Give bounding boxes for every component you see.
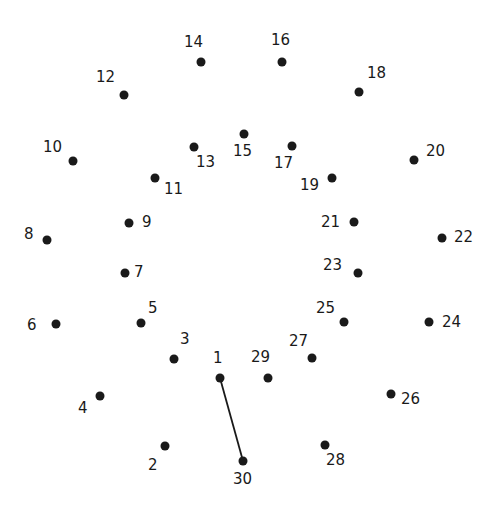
dot-number-label: 17 — [274, 154, 293, 172]
dot-marker[interactable] — [239, 457, 248, 466]
dot-25[interactable]: 25 — [316, 299, 349, 327]
dot-number-label: 22 — [454, 228, 473, 246]
dot-marker[interactable] — [137, 319, 146, 328]
dot-14[interactable]: 14 — [184, 33, 206, 67]
dot-number-label: 29 — [251, 348, 270, 366]
dot-number-label: 18 — [367, 64, 386, 82]
dot-marker[interactable] — [438, 234, 447, 243]
dot-2[interactable]: 2 — [148, 442, 170, 475]
dot-number-label: 13 — [196, 153, 215, 171]
dot-marker[interactable] — [340, 318, 349, 327]
dot-marker[interactable] — [125, 219, 134, 228]
dot-1[interactable]: 1 — [213, 349, 225, 383]
dot-marker[interactable] — [288, 142, 297, 151]
dot-marker[interactable] — [96, 392, 105, 401]
dot-marker[interactable] — [161, 442, 170, 451]
dot-marker[interactable] — [264, 374, 273, 383]
dot-10[interactable]: 10 — [43, 138, 78, 166]
dot-19[interactable]: 19 — [300, 174, 337, 195]
dot-number-label: 21 — [321, 213, 340, 231]
dot-marker[interactable] — [216, 374, 225, 383]
dot-6[interactable]: 6 — [27, 316, 61, 334]
dot-16[interactable]: 16 — [271, 31, 290, 67]
dot-marker[interactable] — [321, 441, 330, 450]
puzzle-dots: 1234567891011121314151617181920212223242… — [24, 31, 473, 488]
dot-15[interactable]: 15 — [233, 130, 252, 161]
dot-23[interactable]: 23 — [323, 256, 363, 278]
dot-number-label: 7 — [134, 263, 144, 281]
dot-5[interactable]: 5 — [137, 299, 158, 328]
dot-number-label: 30 — [233, 470, 252, 488]
dot-marker[interactable] — [69, 157, 78, 166]
dot-marker[interactable] — [170, 355, 179, 364]
dot-number-label: 11 — [164, 180, 183, 198]
dot-9[interactable]: 9 — [125, 213, 152, 231]
dot-marker[interactable] — [197, 58, 206, 67]
dot-number-label: 2 — [148, 456, 158, 474]
dot-marker[interactable] — [354, 269, 363, 278]
dot-marker[interactable] — [355, 88, 364, 97]
dot-30[interactable]: 30 — [233, 457, 252, 489]
dot-number-label: 4 — [78, 399, 88, 417]
dot-marker[interactable] — [425, 318, 434, 327]
dot-number-label: 3 — [180, 330, 190, 348]
dot-24[interactable]: 24 — [425, 313, 462, 331]
dot-18[interactable]: 18 — [355, 64, 387, 97]
dot-number-label: 12 — [96, 68, 115, 86]
dot-marker[interactable] — [151, 174, 160, 183]
dot-20[interactable]: 20 — [410, 142, 446, 165]
dot-12[interactable]: 12 — [96, 68, 129, 100]
dot-number-label: 8 — [24, 225, 34, 243]
dot-4[interactable]: 4 — [78, 392, 105, 418]
dot-marker[interactable] — [410, 156, 419, 165]
dot-number-label: 25 — [316, 299, 335, 317]
dot-number-label: 15 — [233, 142, 252, 160]
dot-number-label: 1 — [213, 349, 223, 367]
dot-marker[interactable] — [190, 143, 199, 152]
dot-number-label: 14 — [184, 33, 203, 51]
dot-number-label: 24 — [442, 313, 461, 331]
dot-marker[interactable] — [240, 130, 249, 139]
dot-number-label: 27 — [289, 332, 308, 350]
connecting-lines — [220, 378, 243, 461]
dot-8[interactable]: 8 — [24, 225, 52, 245]
dot-28[interactable]: 28 — [321, 441, 346, 470]
dot-to-dot-puzzle: 1234567891011121314151617181920212223242… — [0, 0, 500, 517]
dot-7[interactable]: 7 — [121, 263, 144, 281]
dot-marker[interactable] — [350, 218, 359, 227]
dot-marker[interactable] — [278, 58, 287, 67]
dot-marker[interactable] — [43, 236, 52, 245]
dot-17[interactable]: 17 — [274, 142, 297, 173]
dot-number-label: 5 — [148, 299, 158, 317]
dot-11[interactable]: 11 — [151, 174, 184, 199]
dot-3[interactable]: 3 — [170, 330, 190, 364]
dot-number-label: 16 — [271, 31, 290, 49]
connecting-line-1-30 — [220, 378, 243, 461]
dot-22[interactable]: 22 — [438, 228, 474, 246]
dot-marker[interactable] — [387, 390, 396, 399]
dot-number-label: 10 — [43, 138, 62, 156]
dot-13[interactable]: 13 — [190, 143, 216, 172]
dot-marker[interactable] — [328, 174, 337, 183]
dot-number-label: 28 — [326, 451, 345, 469]
dot-marker[interactable] — [121, 269, 130, 278]
dot-number-label: 6 — [27, 316, 37, 334]
dot-number-label: 20 — [426, 142, 445, 160]
dot-number-label: 9 — [142, 213, 152, 231]
dot-21[interactable]: 21 — [321, 213, 359, 231]
dot-27[interactable]: 27 — [289, 332, 317, 363]
dot-number-label: 23 — [323, 256, 342, 274]
dot-number-label: 19 — [300, 176, 319, 194]
dot-26[interactable]: 26 — [387, 390, 421, 409]
dot-marker[interactable] — [52, 320, 61, 329]
dot-marker[interactable] — [308, 354, 317, 363]
dot-29[interactable]: 29 — [251, 348, 273, 383]
dot-number-label: 26 — [401, 390, 420, 408]
dot-marker[interactable] — [120, 91, 129, 100]
